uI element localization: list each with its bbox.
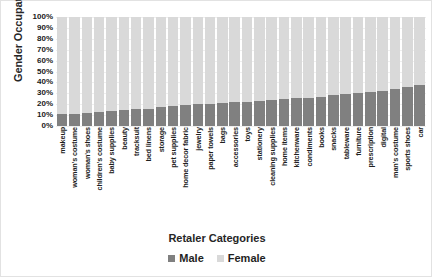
bar-segment-male[interactable] bbox=[217, 103, 228, 126]
bar-column[interactable] bbox=[57, 17, 68, 126]
bar-segment-male[interactable] bbox=[353, 93, 364, 126]
bar-column[interactable] bbox=[156, 17, 167, 126]
bar-segment-female[interactable] bbox=[193, 17, 204, 104]
bar-segment-female[interactable] bbox=[316, 17, 327, 97]
bar-segment-female[interactable] bbox=[390, 17, 401, 89]
bar-segment-male[interactable] bbox=[303, 98, 314, 126]
bar-segment-female[interactable] bbox=[414, 17, 425, 85]
bar-segment-female[interactable] bbox=[143, 17, 154, 109]
bar-segment-male[interactable] bbox=[266, 100, 277, 126]
bar-column[interactable] bbox=[82, 17, 93, 126]
bar-column[interactable] bbox=[168, 17, 179, 126]
bar-segment-female[interactable] bbox=[328, 17, 339, 95]
x-label-slot: paper towels bbox=[204, 127, 216, 231]
x-axis-category-label: stationery bbox=[255, 127, 264, 160]
x-label-slot: kitchenware bbox=[290, 127, 302, 231]
bar-segment-female[interactable] bbox=[365, 17, 376, 92]
bar-segment-female[interactable] bbox=[402, 17, 413, 87]
bar-column[interactable] bbox=[377, 17, 388, 126]
bar-segment-male[interactable] bbox=[229, 102, 240, 126]
bar-segment-male[interactable] bbox=[156, 107, 167, 126]
bar-segment-male[interactable] bbox=[119, 110, 130, 126]
bar-segment-male[interactable] bbox=[193, 104, 204, 126]
bar-column[interactable] bbox=[106, 17, 117, 126]
bar-column[interactable] bbox=[217, 17, 228, 126]
bar-segment-female[interactable] bbox=[205, 17, 216, 104]
bar-column[interactable] bbox=[143, 17, 154, 126]
x-label-slot: home items bbox=[278, 127, 290, 231]
bar-segment-male[interactable] bbox=[365, 92, 376, 126]
bar-segment-male[interactable] bbox=[291, 98, 302, 126]
bar-segment-female[interactable] bbox=[131, 17, 142, 109]
bar-column[interactable] bbox=[266, 17, 277, 126]
bar-column[interactable] bbox=[340, 17, 351, 126]
bar-column[interactable] bbox=[402, 17, 413, 126]
bar-segment-female[interactable] bbox=[303, 17, 314, 98]
bar-segment-male[interactable] bbox=[180, 105, 191, 126]
bar-segment-male[interactable] bbox=[328, 95, 339, 126]
bar-segment-female[interactable] bbox=[377, 17, 388, 91]
bar-segment-male[interactable] bbox=[69, 114, 80, 126]
bar-column[interactable] bbox=[279, 17, 290, 126]
bar-segment-male[interactable] bbox=[106, 111, 117, 126]
x-axis-category-label: cleaning supplies bbox=[267, 127, 276, 186]
bar-column[interactable] bbox=[242, 17, 253, 126]
bar-column[interactable] bbox=[353, 17, 364, 126]
bar-segment-male[interactable] bbox=[340, 94, 351, 126]
bar-segment-male[interactable] bbox=[279, 99, 290, 126]
bar-column[interactable] bbox=[414, 17, 425, 126]
bar-column[interactable] bbox=[193, 17, 204, 126]
bar-segment-male[interactable] bbox=[316, 97, 327, 126]
bar-column[interactable] bbox=[180, 17, 191, 126]
legend-item[interactable]: Male bbox=[168, 252, 203, 264]
bar-segment-female[interactable] bbox=[266, 17, 277, 100]
bar-segment-male[interactable] bbox=[242, 102, 253, 126]
bar-segment-male[interactable] bbox=[143, 109, 154, 126]
y-axis-tick-label: 40% bbox=[19, 78, 53, 86]
bar-segment-male[interactable] bbox=[168, 106, 179, 126]
bar-column[interactable] bbox=[291, 17, 302, 126]
bar-segment-male[interactable] bbox=[82, 113, 93, 126]
bar-segment-female[interactable] bbox=[291, 17, 302, 98]
bar-column[interactable] bbox=[365, 17, 376, 126]
x-axis-category-label: paper towels bbox=[206, 127, 215, 170]
bar-column[interactable] bbox=[119, 17, 130, 126]
bar-column[interactable] bbox=[229, 17, 240, 126]
bar-segment-male[interactable] bbox=[94, 112, 105, 126]
bar-segment-male[interactable] bbox=[205, 104, 216, 126]
bar-segment-female[interactable] bbox=[254, 17, 265, 101]
bar-segment-male[interactable] bbox=[414, 85, 425, 126]
bar-column[interactable] bbox=[390, 17, 401, 126]
bar-segment-female[interactable] bbox=[106, 17, 117, 111]
bar-segment-female[interactable] bbox=[340, 17, 351, 94]
bar-segment-female[interactable] bbox=[94, 17, 105, 112]
bar-segment-female[interactable] bbox=[69, 17, 80, 114]
bar-column[interactable] bbox=[69, 17, 80, 126]
bar-segment-female[interactable] bbox=[156, 17, 167, 107]
bar-column[interactable] bbox=[303, 17, 314, 126]
bar-column[interactable] bbox=[254, 17, 265, 126]
bar-column[interactable] bbox=[131, 17, 142, 126]
x-axis-category-label: woman's costume bbox=[70, 127, 79, 188]
bar-column[interactable] bbox=[316, 17, 327, 126]
bar-column[interactable] bbox=[205, 17, 216, 126]
bar-segment-female[interactable] bbox=[180, 17, 191, 105]
bar-segment-male[interactable] bbox=[377, 91, 388, 126]
bar-segment-female[interactable] bbox=[168, 17, 179, 106]
bar-segment-female[interactable] bbox=[82, 17, 93, 113]
bar-segment-female[interactable] bbox=[217, 17, 228, 103]
bar-segment-female[interactable] bbox=[229, 17, 240, 102]
bar-column[interactable] bbox=[328, 17, 339, 126]
bar-segment-female[interactable] bbox=[279, 17, 290, 99]
bar-segment-male[interactable] bbox=[131, 109, 142, 126]
bar-segment-female[interactable] bbox=[57, 17, 68, 114]
bar-segment-female[interactable] bbox=[353, 17, 364, 93]
bar-segment-male[interactable] bbox=[254, 101, 265, 126]
bar-segment-male[interactable] bbox=[402, 87, 413, 126]
bar-segment-female[interactable] bbox=[119, 17, 130, 110]
bar-segment-female[interactable] bbox=[242, 17, 253, 102]
bar-column[interactable] bbox=[94, 17, 105, 126]
bar-segment-male[interactable] bbox=[57, 114, 68, 126]
legend-item[interactable]: Female bbox=[217, 252, 266, 264]
bar-segment-male[interactable] bbox=[390, 89, 401, 126]
